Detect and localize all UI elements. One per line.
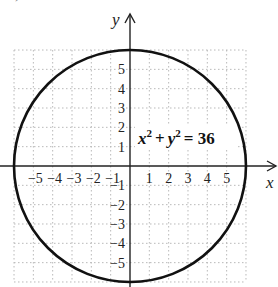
y-tick-label: −3 — [110, 217, 125, 232]
x-tick-label: 4 — [204, 171, 211, 186]
y-tick-label: 2 — [118, 120, 125, 135]
x-tick-label: 5 — [223, 171, 230, 186]
x-tick-label: −3 — [67, 171, 82, 186]
y-tick-label: 1 — [118, 140, 125, 155]
x-tick-label: −2 — [86, 171, 101, 186]
y-tick-label: −5 — [110, 256, 125, 271]
y-tick-label: 4 — [118, 82, 125, 97]
y-tick-label: 3 — [118, 101, 125, 116]
x-tick-label: 1 — [146, 171, 153, 186]
x-axis-label: x — [265, 173, 274, 192]
x-tick-label: −4 — [47, 171, 62, 186]
x-tick-label: 3 — [184, 171, 191, 186]
y-tick-label: 5 — [118, 62, 125, 77]
x-tick-labels: −5−4−3−2−112345 — [28, 171, 230, 186]
y-tick-label: −1 — [110, 178, 125, 193]
circle-graph: c) Circle x y −5−4−3−2−112345 54321−1−2−… — [0, 0, 278, 287]
y-tick-label: −4 — [110, 236, 125, 251]
x-tick-label: 2 — [165, 171, 172, 186]
figure-label: c) Circle — [8, 0, 64, 2]
x-tick-label: −5 — [28, 171, 43, 186]
y-tick-label: −2 — [110, 198, 125, 213]
y-axis-label: y — [110, 10, 120, 29]
